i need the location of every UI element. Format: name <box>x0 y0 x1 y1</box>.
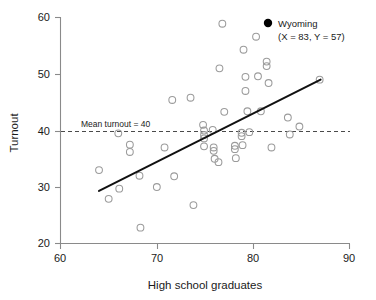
data-point <box>201 143 208 150</box>
data-point <box>296 123 303 130</box>
legend-detail-wyoming: (X = 83, Y = 57) <box>278 31 345 42</box>
data-point <box>171 173 178 180</box>
chart-canvas: 60 50 40 30 20 60 70 80 90 High school g… <box>0 0 376 300</box>
data-point <box>190 202 197 209</box>
x-axis-title: High school graduates <box>148 279 263 291</box>
data-point <box>242 73 249 80</box>
data-point <box>265 80 272 87</box>
data-point <box>246 129 253 136</box>
data-point <box>105 195 112 202</box>
data-point <box>240 46 247 53</box>
data-point <box>232 155 239 162</box>
y-tick-labels: 60 50 40 30 20 <box>38 11 50 249</box>
axes-group <box>60 17 350 244</box>
data-point <box>263 63 270 70</box>
data-point <box>219 20 226 27</box>
legend-label-wyoming: Wyoming <box>278 18 318 29</box>
data-point <box>169 97 176 104</box>
data-point <box>161 144 168 151</box>
x-tick-label-90: 90 <box>343 252 355 264</box>
x-tick-label-60: 60 <box>54 252 66 264</box>
x-tick-labels: 60 70 80 90 <box>54 252 355 264</box>
y-tick-label-20: 20 <box>38 237 50 249</box>
legend: Wyoming (X = 83, Y = 57) <box>264 18 345 43</box>
data-point <box>216 65 223 72</box>
y-tick-label-50: 50 <box>38 68 50 80</box>
x-tick-label-80: 80 <box>247 252 259 264</box>
y-tick-label-60: 60 <box>38 11 50 23</box>
data-point <box>153 184 160 191</box>
data-point <box>244 108 251 115</box>
data-point <box>126 149 133 156</box>
y-tick-label-30: 30 <box>38 181 50 193</box>
regression-fit-line <box>99 80 321 191</box>
data-point <box>137 224 144 231</box>
data-point <box>284 114 291 121</box>
data-point <box>221 108 228 115</box>
x-tick-label-70: 70 <box>151 252 163 264</box>
y-tick-label-40: 40 <box>38 125 50 137</box>
data-point <box>115 130 122 137</box>
data-point <box>116 185 123 192</box>
mean-turnout-label: Mean turnout = 40 <box>81 119 151 129</box>
data-point <box>268 144 275 151</box>
legend-marker-wyoming <box>264 19 272 27</box>
data-point <box>136 172 143 179</box>
data-point <box>96 167 103 174</box>
data-point <box>187 94 194 101</box>
data-point <box>253 33 260 40</box>
scatter-plot-figure: 60 50 40 30 20 60 70 80 90 High school g… <box>0 0 376 300</box>
data-point <box>286 131 293 138</box>
y-axis-title: Turnout <box>8 113 20 153</box>
y-tick-marks <box>55 18 61 244</box>
data-point <box>126 141 133 148</box>
data-point <box>239 142 246 149</box>
data-point <box>255 73 262 80</box>
x-tick-marks <box>61 244 350 250</box>
data-point <box>242 88 249 95</box>
